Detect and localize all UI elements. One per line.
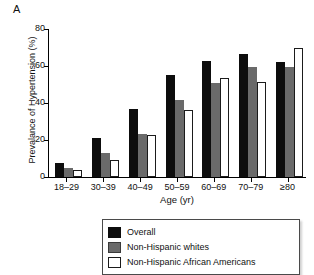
bar [175, 100, 184, 177]
bar [294, 48, 303, 178]
chart-legend: OverallNon-Hispanic whitesNon-Hispanic A… [102, 219, 300, 275]
bar-group [129, 29, 156, 177]
bar [55, 163, 64, 177]
x-tick-label: 50–59 [159, 182, 196, 193]
legend-item: Non-Hispanic whites [108, 240, 294, 254]
bar [73, 170, 82, 177]
bar [276, 62, 285, 177]
bar [248, 67, 257, 177]
bar [147, 135, 156, 177]
bar-group [55, 29, 82, 177]
x-tick-label: 40–49 [122, 182, 159, 193]
x-tick-label: 60–69 [195, 182, 232, 193]
y-tick-label: 20 [35, 134, 45, 145]
y-tick-label: 60 [35, 60, 45, 71]
bar [101, 153, 110, 177]
gray-filled-swatch [108, 242, 121, 253]
legend-item: Non-Hispanic African Americans [108, 255, 294, 269]
bar [110, 160, 119, 177]
bar [285, 67, 294, 177]
bar [129, 109, 138, 177]
bar-group [239, 29, 266, 177]
bar [92, 138, 101, 177]
x-tick-label: 70–79 [232, 182, 269, 193]
bar [211, 83, 220, 177]
white-outlined-swatch [108, 257, 121, 268]
bar-group [276, 29, 303, 177]
bar [202, 61, 211, 177]
legend-item-label: Non-Hispanic African Americans [127, 257, 256, 268]
legend-item-label: Non-Hispanic whites [127, 242, 209, 253]
bar [138, 134, 147, 177]
x-tick-label: 30–39 [85, 182, 122, 193]
bar-group [202, 29, 229, 177]
bar [239, 54, 248, 177]
panel-label: A [13, 3, 20, 15]
y-tick-label: 80 [35, 23, 45, 34]
bar [64, 168, 73, 177]
plot-area: 020406080 18–2930–3940–4950–5960–6970–79… [48, 29, 306, 177]
black-filled-swatch [108, 227, 121, 238]
x-tick-label: ≥80 [269, 182, 306, 193]
bar [220, 78, 229, 177]
bar-group [92, 29, 119, 177]
bar [257, 82, 266, 177]
bar [166, 75, 175, 177]
bar [184, 110, 193, 177]
x-tick-label: 18–29 [48, 182, 85, 193]
y-tick-label: 0 [40, 171, 45, 182]
x-axis-title: Age (yr) [48, 194, 306, 205]
bar-group [166, 29, 193, 177]
legend-item: Overall [108, 225, 294, 239]
legend-item-label: Overall [127, 227, 156, 238]
y-tick-label: 40 [35, 97, 45, 108]
